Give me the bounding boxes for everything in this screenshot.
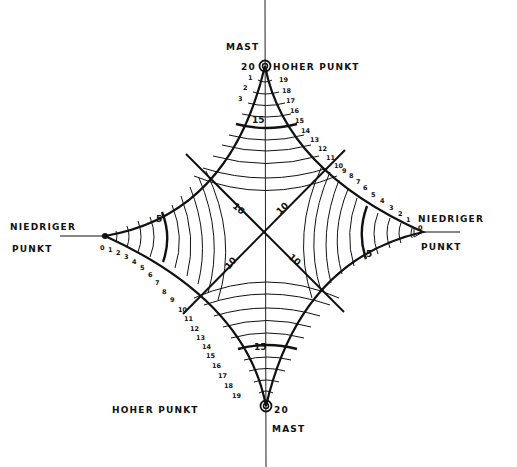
bottom-value-label: 20	[274, 405, 289, 415]
svg-text:11: 11	[184, 315, 194, 323]
svg-text:6: 6	[363, 184, 368, 192]
svg-text:5: 5	[140, 264, 145, 272]
top-mast-label: MAST	[226, 42, 259, 52]
svg-text:9: 9	[342, 167, 347, 175]
left-low-point-marker	[102, 233, 108, 239]
svg-text:17: 17	[286, 97, 295, 105]
svg-text:16: 16	[212, 362, 222, 370]
svg-text:11: 11	[326, 154, 336, 162]
edge-ticks-top-left: 1 2 3	[238, 74, 253, 103]
svg-text:1: 1	[108, 246, 113, 254]
edge-ticks-right-upper: 9 8 7 6 5 4 3 2 1 0	[342, 167, 423, 232]
svg-text:8: 8	[162, 288, 167, 296]
svg-text:15: 15	[206, 352, 216, 360]
svg-text:19: 19	[279, 76, 289, 84]
contour-diagram: MAST 20 HOHER PUNKT HOHER PUNKT 20 MAST …	[0, 0, 517, 467]
svg-text:7: 7	[356, 178, 361, 186]
right-low-point-label-1: NIEDRIGER	[418, 214, 484, 224]
contour-label-bottom-15: 15	[254, 342, 267, 352]
top-value-label: 20	[241, 62, 256, 72]
bottom-high-point-label: HOHER PUNKT	[112, 405, 199, 415]
svg-text:0: 0	[100, 244, 105, 252]
svg-text:7: 7	[155, 279, 160, 287]
svg-text:14: 14	[301, 127, 311, 135]
svg-text:3: 3	[238, 95, 243, 103]
contour-label-center-ne: 10	[274, 200, 290, 216]
svg-text:5: 5	[371, 191, 376, 199]
contour-label-left-5: 5	[156, 214, 162, 224]
contour-label-top-15: 15	[252, 115, 265, 125]
svg-text:19: 19	[232, 392, 242, 400]
left-lobe-contours	[116, 171, 226, 300]
svg-text:2: 2	[116, 249, 121, 257]
svg-text:18: 18	[224, 382, 234, 390]
edge-ticks-bottom-left: 10 11 12 13 14 15 16 17 18 19	[178, 306, 242, 400]
svg-text:15: 15	[295, 117, 305, 125]
svg-text:0: 0	[418, 224, 423, 232]
svg-text:13: 13	[310, 136, 319, 144]
svg-text:12: 12	[318, 145, 327, 153]
svg-text:14: 14	[202, 343, 212, 351]
contour-label-right-5: 5	[366, 249, 372, 259]
svg-text:1: 1	[406, 216, 411, 224]
svg-text:2: 2	[243, 84, 248, 92]
svg-text:3: 3	[389, 204, 394, 212]
left-low-point-label-2: PUNKT	[12, 244, 53, 254]
svg-text:2: 2	[398, 210, 403, 218]
top-high-point-label: HOHER PUNKT	[273, 62, 360, 72]
contour-label-center-se: 10	[287, 252, 303, 268]
svg-text:4: 4	[380, 197, 385, 205]
svg-text:8: 8	[349, 172, 354, 180]
svg-text:12: 12	[190, 325, 199, 333]
bottom-lobe-contours	[194, 282, 339, 393]
svg-text:9: 9	[170, 296, 175, 304]
svg-text:17: 17	[218, 372, 227, 380]
bottom-mast-label: MAST	[272, 424, 305, 434]
svg-text:4: 4	[132, 258, 137, 266]
svg-text:10: 10	[178, 306, 188, 314]
svg-text:13: 13	[196, 334, 205, 342]
svg-text:16: 16	[290, 107, 300, 115]
right-low-point-label-2: PUNKT	[421, 242, 462, 252]
contour-label-center-nw: 10	[231, 201, 247, 217]
left-low-point-label-1: NIEDRIGER	[10, 222, 76, 232]
svg-text:6: 6	[148, 271, 153, 279]
svg-text:3: 3	[124, 253, 129, 261]
svg-text:1: 1	[248, 74, 253, 82]
svg-text:18: 18	[282, 87, 292, 95]
